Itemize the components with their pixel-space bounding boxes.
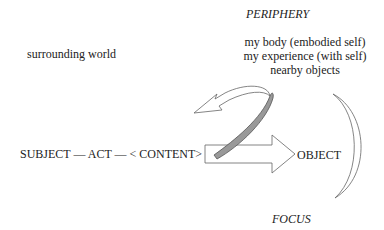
object-label: OBJECT <box>297 148 341 162</box>
surrounding-world-label: surrounding world <box>27 47 116 61</box>
periphery-item-body: my body (embodied self) <box>240 35 370 49</box>
subject-act-content-label: SUBJECT — ACT — < CONTENT> <box>20 147 202 161</box>
focus-bracket <box>333 94 361 198</box>
periphery-item-objects: nearby objects <box>240 63 370 77</box>
periphery-item-experience: my experience (with self) <box>240 49 370 63</box>
focus-heading: FOCUS <box>272 212 311 226</box>
periphery-curved-arrow <box>194 86 270 113</box>
periphery-heading: PERIPHERY <box>246 7 309 21</box>
